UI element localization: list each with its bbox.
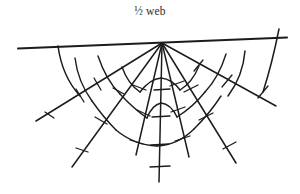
barb-right3-outer xyxy=(175,136,190,141)
spiral-ring-2-right-mid xyxy=(161,103,177,117)
barb-center-tip xyxy=(150,166,170,167)
radius-center xyxy=(159,43,162,182)
outer-arc-left-inner xyxy=(228,51,245,96)
barb-center-inner xyxy=(154,89,170,90)
barb-center-mid xyxy=(152,116,170,117)
spiral-ring-3-left xyxy=(92,101,116,130)
web-drawing xyxy=(0,0,300,194)
barb-left3-outer xyxy=(130,140,143,144)
radius-left-1 xyxy=(36,43,162,121)
spiral-ring-3-left-mid xyxy=(116,130,157,146)
radii-group xyxy=(36,43,276,182)
barb-right1-outer xyxy=(258,86,268,98)
spiral-ring-2-left xyxy=(120,94,147,118)
radius-right-2 xyxy=(162,43,236,163)
outer-arc-far-left xyxy=(58,46,80,96)
radius-left-2 xyxy=(72,43,162,167)
web-figure: ½ web xyxy=(0,0,300,194)
spiral-ring-1-left xyxy=(122,67,140,92)
spiral-ring-3-right-mid xyxy=(157,129,194,146)
radius-right-3 xyxy=(162,43,189,157)
